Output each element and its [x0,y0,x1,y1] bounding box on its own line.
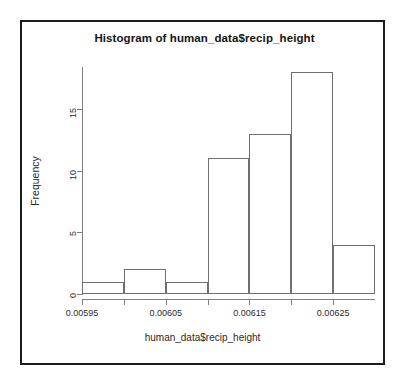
x-axis-tick [124,299,125,305]
x-axis-tick [249,299,250,305]
y-axis-tick-label: 5 [68,231,78,236]
histogram-bar [291,72,333,294]
x-axis-tick [291,299,292,305]
page-title: Histogram of human_data$recip_height [22,32,387,44]
x-axis-tick [208,299,209,305]
x-axis-tick [82,299,83,305]
y-axis-title-label: Frequency [29,156,41,206]
y-axis-tick-label: 10 [68,170,78,180]
histogram-bar [166,282,208,294]
x-axis-tick [333,299,334,305]
y-axis-tick-label: 15 [68,108,78,118]
x-axis-line [82,299,375,300]
x-axis-title: human_data$recip_height [22,332,383,343]
x-axis-tick-label: 0.00605 [149,308,182,318]
histogram-bar [82,282,124,294]
histogram-bar [124,269,166,294]
histogram-bar [333,245,375,294]
x-axis-tick-label: 0.00625 [317,308,350,318]
x-axis-tick-label: 0.00615 [233,308,266,318]
bars-group [82,67,375,294]
y-axis-title: Frequency [26,67,44,294]
histogram-bar [208,158,250,294]
x-axis-tick-label: 0.00595 [66,308,99,318]
x-axis: 0.005950.006050.006150.00625 [82,299,375,309]
histogram-bar [249,134,291,294]
x-axis-tick [166,299,167,305]
plot-frame: Histogram of human_data$recip_height Fre… [20,20,385,365]
y-axis-tick-label: 0 [68,293,78,298]
plot-area [82,67,375,294]
histogram-screenshot: Histogram of human_data$recip_height Fre… [0,0,405,382]
